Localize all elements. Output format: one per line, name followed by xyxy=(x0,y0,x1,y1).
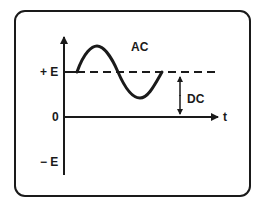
plus-e-label: + E xyxy=(40,65,58,79)
ac-label: AC xyxy=(131,40,149,54)
ac-dc-waveform-diagram: AC DC t + E 0 − E xyxy=(0,0,261,205)
dc-label: DC xyxy=(187,92,205,106)
time-axis-label: t xyxy=(223,110,227,124)
zero-label: 0 xyxy=(52,110,59,124)
minus-e-label: − E xyxy=(40,155,58,169)
